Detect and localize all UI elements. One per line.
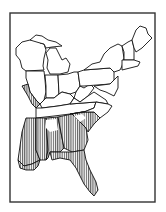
eastern-us-map [0, 0, 166, 212]
region-pennsylvania [78, 68, 114, 86]
region-maine [132, 26, 152, 52]
region-florida [50, 150, 98, 196]
map-figure [0, 0, 166, 212]
region-indiana [45, 75, 59, 98]
region-lower-michigan [46, 48, 70, 74]
state-regions [16, 26, 152, 196]
region-massachusetts-ct-ri [122, 60, 140, 70]
region-new-york [84, 44, 124, 72]
region-vermont-nh [122, 40, 134, 60]
